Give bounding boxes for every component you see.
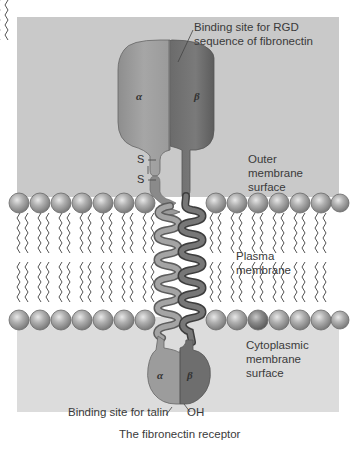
outer-membrane-surface-label: Outer membrane surface bbox=[248, 152, 303, 194]
figure-caption: The fibronectin receptor bbox=[119, 427, 240, 441]
disulfide-s-top: S bbox=[137, 153, 144, 165]
plasma-membrane-label: Plasma membrane bbox=[236, 249, 291, 277]
oh-terminus-label: OH bbox=[187, 405, 204, 419]
beta-subunit-label-bottom: β bbox=[187, 369, 193, 381]
diagram-artwork bbox=[0, 0, 354, 459]
alpha-subunit-label-bottom: α bbox=[157, 369, 163, 381]
cytoplasmic-membrane-surface-label: Cytoplasmic membrane surface bbox=[246, 338, 309, 380]
disulfide-s-bottom: S bbox=[137, 173, 144, 185]
alpha-subunit-label-top: α bbox=[136, 90, 142, 102]
fibronectin-receptor-diagram: Binding site for RGD sequence of fibrone… bbox=[0, 0, 354, 459]
upper-lipid-tails bbox=[0, 0, 8, 40]
beta-subunit-label-top: β bbox=[194, 90, 200, 102]
rgd-binding-site-label: Binding site for RGD sequence of fibrone… bbox=[194, 20, 313, 48]
talin-binding-site-label: Binding site for talin bbox=[68, 405, 168, 419]
